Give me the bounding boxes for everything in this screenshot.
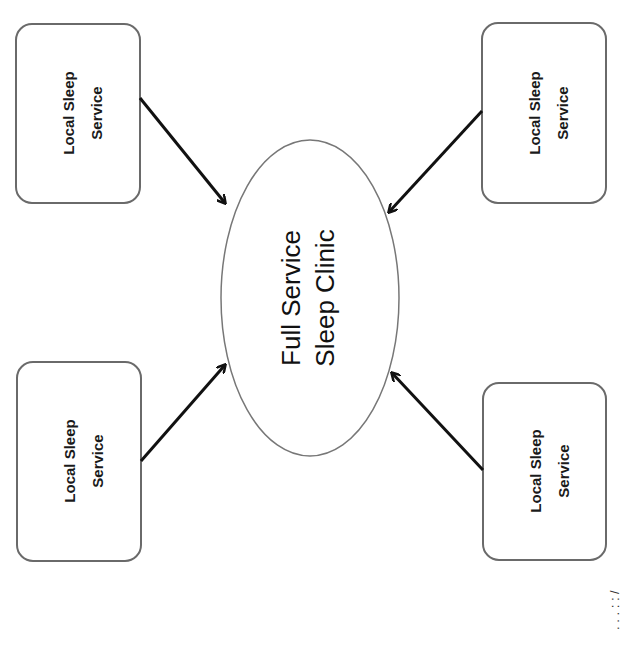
node-box: [483, 383, 606, 560]
clipped-caption-fragment: . . . : : /: [607, 590, 622, 630]
node-local-sleep-service-bottom-left: Local Sleep Service: [17, 362, 141, 561]
node-local-sleep-service-bottom-right: Local Sleep Service: [483, 383, 606, 560]
node-label-line1: Local Sleep: [60, 71, 77, 154]
node-label-line2: Service: [555, 444, 572, 497]
arrow-top-left-to-center: [140, 98, 225, 203]
node-label-line2: Service: [89, 434, 106, 487]
arrow-bottom-left-to-center: [141, 365, 225, 461]
arrow-bottom-right-to-center: [392, 373, 483, 470]
center-node-full-service-sleep-clinic: Full Service Sleep Clinic: [221, 140, 399, 456]
node-label-line2: Service: [554, 86, 571, 139]
node-label-line2: Service: [88, 86, 105, 139]
caption-fragment: . . . : : /: [607, 590, 622, 630]
node-box: [17, 362, 141, 561]
node-local-sleep-service-top-right: Local Sleep Service: [482, 23, 606, 203]
node-box: [16, 24, 140, 203]
center-label-line2: Sleep Clinic: [310, 229, 340, 366]
arrow-top-right-to-center: [389, 111, 482, 212]
center-label-line1: Full Service: [276, 230, 306, 366]
node-box: [482, 23, 606, 203]
node-local-sleep-service-top-left: Local Sleep Service: [16, 24, 140, 203]
node-label-line1: Local Sleep: [527, 429, 544, 512]
node-label-line1: Local Sleep: [61, 419, 78, 502]
hub-and-spoke-diagram: Full Service Sleep Clinic Local Sleep Se…: [0, 0, 625, 651]
node-label-line1: Local Sleep: [526, 71, 543, 154]
